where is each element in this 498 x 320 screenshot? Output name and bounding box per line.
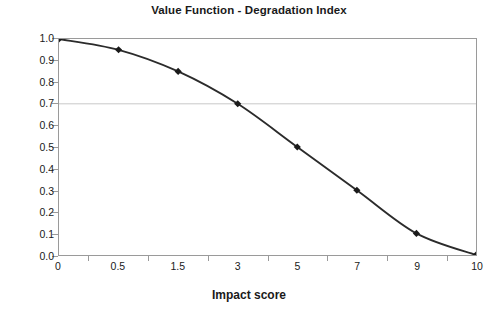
chart-title: Value Function - Degradation Index	[0, 4, 498, 16]
x-axis-tick-label: 0	[55, 260, 61, 272]
y-axis-tick-label: 0.8	[20, 76, 54, 88]
x-axis-title: Impact score	[0, 288, 498, 302]
x-axis-tick-label: 1.5	[170, 260, 185, 272]
y-axis-tick-label: 0.4	[20, 163, 54, 175]
x-axis-tick-label: 5	[295, 260, 301, 272]
y-axis-tick-label: 0.3	[20, 185, 54, 197]
y-axis-tick-label: 0.2	[20, 206, 54, 218]
y-axis-tick-label: 0.1	[20, 228, 54, 240]
series-line-path	[59, 39, 476, 255]
x-axis-tick-labels: 00.51.5357910	[58, 260, 477, 278]
x-axis-tick-label: 10	[471, 260, 483, 272]
chart-container: Value Function - Degradation Index 1.00.…	[0, 0, 498, 320]
plot-area	[58, 38, 477, 256]
y-axis-tick-label: 0.0	[20, 250, 54, 262]
y-axis-tick-label: 0.5	[20, 141, 54, 153]
x-axis-tick-label: 0.5	[111, 260, 126, 272]
y-axis-tick-label: 0.9	[20, 54, 54, 66]
data-point-marker	[175, 68, 182, 75]
data-series-line	[59, 39, 476, 255]
x-axis-tick-label: 9	[414, 260, 420, 272]
data-point-marker	[115, 46, 122, 53]
y-axis-tick-labels: 1.00.90.80.70.60.50.40.30.20.10.0	[14, 38, 54, 256]
y-axis-tick-label: 0.6	[20, 119, 54, 131]
y-axis-tick-label: 0.7	[20, 97, 54, 109]
x-axis-tick-label: 7	[354, 260, 360, 272]
y-axis-tick-label: 1.0	[20, 32, 54, 44]
x-axis-tick-label: 3	[235, 260, 241, 272]
